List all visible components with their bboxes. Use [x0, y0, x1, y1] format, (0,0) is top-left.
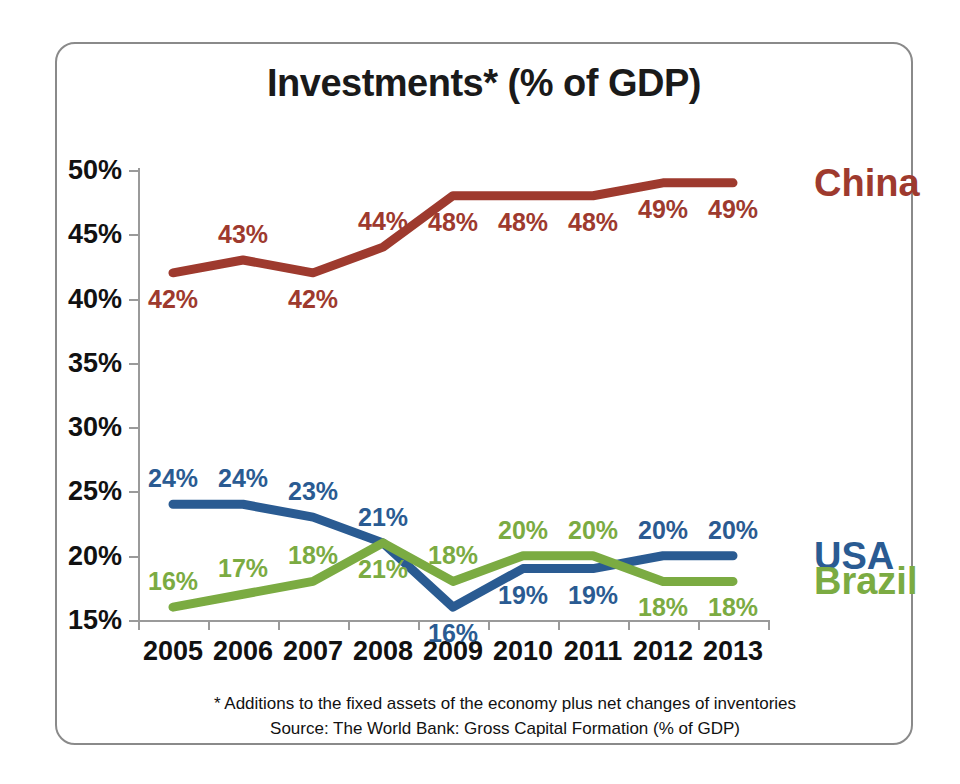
footnote-line-1: * Additions to the fixed assets of the e…: [120, 692, 890, 717]
y-axis-tick: [129, 491, 138, 493]
y-axis-tick: [129, 234, 138, 236]
x-axis-tick: [278, 620, 280, 630]
data-label: 18%: [708, 593, 758, 622]
y-axis-tick: [129, 299, 138, 301]
data-label: 49%: [638, 194, 688, 223]
x-axis-tick: [138, 620, 140, 630]
x-axis-tick-label: 2010: [493, 636, 553, 667]
data-label: 17%: [218, 554, 268, 583]
data-label: 19%: [498, 580, 548, 609]
x-axis-tick: [698, 620, 700, 630]
x-axis-tick-label: 2011: [564, 636, 623, 667]
x-axis-tick-label: 2008: [353, 636, 413, 667]
data-label: 20%: [568, 515, 618, 544]
x-axis-tick-label: 2006: [213, 636, 273, 667]
data-label: 42%: [148, 284, 198, 313]
x-axis-tick: [418, 620, 420, 630]
data-label: 44%: [358, 207, 408, 236]
data-label: 18%: [638, 593, 688, 622]
y-axis-tick: [129, 427, 138, 429]
data-label: 16%: [148, 567, 198, 596]
data-label: 48%: [428, 207, 478, 236]
y-axis-tick-label: 30%: [68, 412, 122, 443]
x-axis-tick: [628, 620, 630, 630]
series-name-china: China: [814, 161, 920, 204]
data-label: 21%: [358, 502, 408, 531]
data-label: 43%: [218, 220, 268, 249]
data-label: 21%: [358, 554, 408, 583]
data-label: 20%: [498, 515, 548, 544]
x-axis-tick: [348, 620, 350, 630]
data-label: 16%: [428, 619, 478, 648]
y-axis-tick: [129, 363, 138, 365]
data-label: 20%: [638, 515, 688, 544]
y-axis-tick: [129, 620, 138, 622]
footnote-line-2: Source: The World Bank: Gross Capital Fo…: [120, 717, 890, 742]
y-axis-tick-label: 15%: [68, 605, 122, 636]
data-label: 18%: [288, 541, 338, 570]
x-axis-tick: [208, 620, 210, 630]
page-title: Investments* (% of GDP): [55, 62, 913, 105]
data-label: 49%: [708, 194, 758, 223]
footnote: * Additions to the fixed assets of the e…: [120, 692, 890, 741]
y-axis-tick: [129, 170, 138, 172]
y-axis-tick-label: 45%: [68, 219, 122, 250]
data-label: 48%: [568, 207, 618, 236]
data-label: 19%: [568, 580, 618, 609]
data-label: 18%: [428, 541, 478, 570]
data-label: 23%: [288, 477, 338, 506]
data-label: 20%: [708, 515, 758, 544]
x-axis-tick-label: 2007: [283, 636, 343, 667]
data-label: 24%: [148, 464, 198, 493]
x-axis-tick: [558, 620, 560, 630]
data-label: 42%: [288, 284, 338, 313]
x-axis-tick: [488, 620, 490, 630]
y-axis-tick-label: 40%: [68, 283, 122, 314]
plot-area: 15%20%25%30%35%40%45%50% 200520062007200…: [138, 170, 768, 620]
x-axis-tick-label: 2013: [703, 636, 763, 667]
x-axis-tick: [768, 620, 770, 630]
y-axis-tick-label: 35%: [68, 347, 122, 378]
chart-page: Investments* (% of GDP) 15%20%25%30%35%4…: [0, 0, 960, 784]
data-label: 48%: [498, 207, 548, 236]
x-axis-tick-label: 2012: [633, 636, 693, 667]
y-axis-tick: [129, 556, 138, 558]
x-axis-tick-label: 2005: [143, 636, 203, 667]
series-name-brazil: Brazil: [814, 560, 917, 603]
y-axis-tick-label: 20%: [68, 540, 122, 571]
y-axis-tick-label: 25%: [68, 476, 122, 507]
y-axis-tick-label: 50%: [68, 155, 122, 186]
data-label: 24%: [218, 464, 268, 493]
